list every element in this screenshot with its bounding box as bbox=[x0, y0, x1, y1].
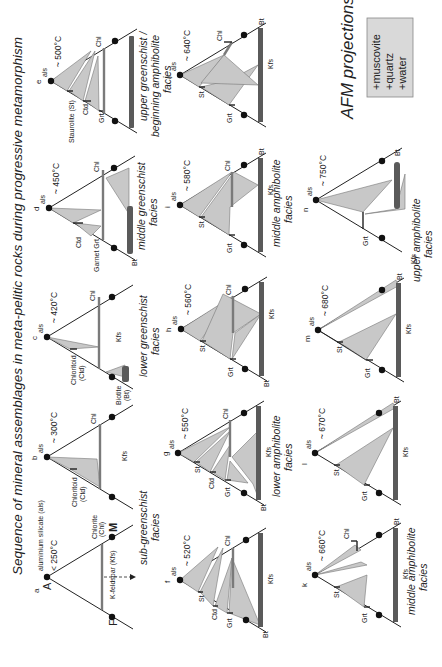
label-st: St bbox=[198, 91, 205, 98]
label-st: St bbox=[194, 466, 201, 473]
label-als: als bbox=[305, 440, 312, 449]
panel-b: b als ~ 300°C Chloritoid (Ctd) Chl Kfs bbox=[30, 405, 133, 509]
facies-label-line1: lower amphibolite bbox=[270, 415, 282, 497]
label-als: als bbox=[306, 187, 313, 196]
box-line-quartz: +quartz bbox=[383, 53, 395, 90]
label-grt: Grt bbox=[362, 236, 369, 246]
label-als: als bbox=[168, 440, 175, 449]
panel-m: m als ~ 680°C St Grt Kfs Bt bbox=[303, 273, 412, 382]
label-als: als bbox=[39, 195, 46, 204]
panel-j: j als ~ 640°C St Grt Chl Kfs Bt bbox=[163, 18, 274, 127]
facies-label-line2: facies bbox=[149, 513, 161, 541]
facies-label-line1: upper greenschist / bbox=[137, 31, 149, 121]
facies-label-line1: middle amphibolite bbox=[270, 159, 282, 247]
panel-k: k als ~ 660°C St Grt Chl Kfs Bt middle a… bbox=[300, 518, 429, 627]
panel-temp: ~ 680°C bbox=[320, 285, 330, 316]
label-chl: Chl bbox=[93, 161, 100, 172]
label-ctd: (Ctd) bbox=[78, 365, 86, 381]
label-als: als bbox=[308, 317, 315, 326]
panel-letter: a bbox=[32, 588, 41, 593]
label-bt: Bt bbox=[131, 259, 138, 266]
label-als: als bbox=[41, 68, 48, 77]
label-bt: Bt bbox=[258, 148, 265, 155]
figure-canvas: Sequence of mineral assemblages in meta-… bbox=[0, 0, 442, 667]
label-chloritoid: Chloritoid bbox=[71, 477, 78, 507]
panel-i: i als ~ 580°C St Grt Chl Kfs Bt middle a… bbox=[163, 148, 294, 257]
label-als: als bbox=[170, 567, 177, 576]
vertex-A: A bbox=[41, 582, 53, 590]
label-ctd: Ctd bbox=[208, 478, 215, 489]
label-staurolite: Staurolite (St) bbox=[68, 100, 76, 143]
label-ctd: (Ctd) bbox=[79, 486, 87, 502]
facies-label-line1: sub-greenschist bbox=[137, 490, 149, 565]
label-bt: Bt bbox=[260, 504, 267, 511]
label-grt: Grt bbox=[226, 243, 233, 253]
box-line-muscovite: +muscovite bbox=[370, 34, 382, 90]
panel-temp: < 250°C bbox=[49, 540, 59, 571]
label-chl: (Chl) bbox=[98, 522, 106, 537]
panel-letter: e bbox=[34, 79, 43, 84]
vertex-F: F bbox=[107, 619, 119, 626]
label-bt: Bt bbox=[258, 18, 265, 25]
facies-label-line1: upper amphibolite bbox=[410, 198, 422, 282]
facies-label-line2: facies bbox=[282, 443, 294, 471]
label-chl: Chl bbox=[95, 36, 102, 47]
label-kfs: Kfs bbox=[402, 446, 409, 457]
label-kfs: Kfs bbox=[267, 573, 274, 584]
panel-letter: l bbox=[300, 463, 309, 465]
label-als: als bbox=[305, 562, 312, 571]
panel-temp: ~ 520°C bbox=[182, 535, 192, 566]
label-kfs: Kfs bbox=[405, 323, 412, 334]
label-bt: Bt bbox=[393, 518, 400, 525]
vertex-M: M bbox=[107, 523, 119, 532]
facies-label-line2: facies bbox=[417, 563, 429, 591]
label-als: als bbox=[37, 324, 44, 333]
panel-letter: g bbox=[161, 452, 170, 456]
panel-letter: i bbox=[163, 206, 172, 208]
figure-title: Sequence of mineral assemblages in meta-… bbox=[10, 37, 25, 575]
label-als: als bbox=[37, 444, 44, 453]
label-st: St bbox=[198, 595, 205, 602]
panel-letter: b bbox=[30, 455, 39, 460]
panel-l: l als ~ 670°C St Grt Kfs Bt bbox=[300, 396, 409, 505]
label-kfeldspar: K-feldspar (Kfs) bbox=[109, 550, 117, 599]
label-grt: Grt bbox=[98, 113, 105, 123]
panel-f: f als ~ 520°C St Ctd Grt Chl Kfs Bt bbox=[163, 528, 274, 638]
panel-letter: h bbox=[164, 328, 173, 332]
facies-label-line2: facies bbox=[282, 195, 294, 223]
panel-e: e als ~ 500°C Staurolite (St) Ctd Grt Ch… bbox=[34, 29, 173, 143]
label-grt: Grt bbox=[226, 618, 233, 628]
label-bt: Bt bbox=[396, 273, 403, 280]
label-st: St bbox=[333, 591, 340, 598]
label-als: als bbox=[171, 316, 178, 325]
panel-temp: ~ 580°C bbox=[182, 160, 192, 191]
label-als: als bbox=[170, 192, 177, 201]
panel-letter: n bbox=[301, 208, 310, 212]
panel-temp: ~ 450°C bbox=[51, 163, 61, 194]
label-biotite: Biotite bbox=[115, 385, 122, 405]
facies-label-line2: facies bbox=[149, 327, 161, 355]
label-grt: Grt bbox=[224, 487, 231, 497]
label-chloritoid: Chloritoid bbox=[70, 355, 77, 385]
facies-label-line1: middle amphibolite bbox=[405, 527, 417, 615]
panel-g: g als ~ 550°C St Ctd Grt Chl Kfs Bt lowe… bbox=[161, 401, 294, 511]
label-bt: (Bt) bbox=[123, 390, 131, 401]
panel-letter: d bbox=[32, 207, 41, 211]
label-st: St bbox=[199, 345, 206, 352]
panel-temp: ~ 670°C bbox=[317, 408, 327, 439]
label-chl: Chl bbox=[222, 408, 229, 419]
label-grt: Grt bbox=[226, 113, 233, 123]
panel-d: d als ~ 450°C Ctd Garnet Grt Chl Bt midd… bbox=[32, 156, 159, 272]
label-st: St bbox=[333, 469, 340, 476]
facies-label-line1: lower greenschist bbox=[137, 294, 149, 377]
panel-temp: ~ 660°C bbox=[317, 530, 327, 561]
afm-diagram: Sequence of mineral assemblages in meta-… bbox=[0, 0, 442, 667]
panel-temp: ~ 420°C bbox=[49, 292, 59, 323]
label-bt: Bt bbox=[262, 631, 269, 638]
panel-a: a A F M aluminium silicate (als) < 250°C… bbox=[32, 490, 161, 629]
panel-letter: j bbox=[163, 76, 172, 79]
facies-label-line2: facies bbox=[422, 230, 434, 258]
facies-label-line2: beginning amphibolite bbox=[149, 35, 161, 137]
label-kfs: Kfs bbox=[267, 58, 274, 69]
label-chl: Chl bbox=[89, 290, 96, 301]
